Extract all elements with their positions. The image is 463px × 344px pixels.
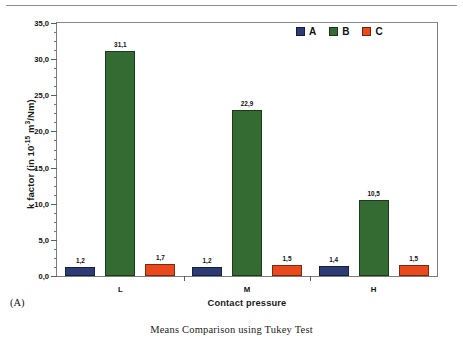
bar-a-m[interactable] xyxy=(192,267,222,276)
bar-value-label: 1,2 xyxy=(76,257,85,264)
bar-c-l[interactable] xyxy=(145,264,175,276)
x-category-label-h: H xyxy=(371,285,377,294)
x-group-separator-tick xyxy=(310,276,311,281)
y-axis-title-exponent-2: 3 xyxy=(24,121,31,125)
y-tick-label: 5,0 xyxy=(38,235,49,244)
y-axis-title: k factor (in 10-15 m3/Nm) xyxy=(24,59,36,249)
bar-value-label: 22,9 xyxy=(241,100,253,107)
legend-item-c[interactable]: C xyxy=(362,26,382,37)
bar-b-m[interactable] xyxy=(232,110,262,276)
y-tick-label: 20,0 xyxy=(34,127,49,136)
bar-b-h[interactable] xyxy=(359,200,389,276)
bars-layer: 1,231,11,71,222,91,51,410,51,5 xyxy=(57,23,437,276)
y-tick-label: 35,0 xyxy=(34,19,49,28)
bar-b-l[interactable] xyxy=(105,51,135,276)
x-category-label-m: M xyxy=(244,285,251,294)
legend-swatch-c xyxy=(362,27,371,36)
figure-caption: Means Comparison using Tukey Test xyxy=(0,324,463,335)
bar-c-m[interactable] xyxy=(272,265,302,276)
y-axis-title-suffix: /Nm) xyxy=(25,99,36,121)
legend-swatch-b xyxy=(329,27,338,36)
y-tick-label: 0,0 xyxy=(38,272,49,281)
x-axis-title: Contact pressure xyxy=(56,298,438,308)
y-tick-label: 10,0 xyxy=(34,199,49,208)
bar-value-label: 1,5 xyxy=(409,255,418,262)
panel-label: (A) xyxy=(10,297,25,308)
figure-grouped-bar-chart: k factor (in 10-15 m3/Nm) 0,05,010,015,0… xyxy=(0,0,463,344)
legend-swatch-a xyxy=(296,27,305,36)
bar-value-label: 1,4 xyxy=(329,256,338,263)
legend-label-a: A xyxy=(309,26,316,37)
bar-a-l[interactable] xyxy=(65,267,95,276)
chart-legend: ABC xyxy=(296,26,383,37)
y-axis-title-exponent-1: -15 xyxy=(24,136,31,146)
x-group-separator-tick xyxy=(184,276,185,281)
bar-value-label: 1,5 xyxy=(283,255,292,262)
bar-value-label: 31,1 xyxy=(114,41,126,48)
plot-area: 0,05,010,015,020,025,030,035,0 LMH 1,231… xyxy=(56,22,438,277)
bar-a-h[interactable] xyxy=(319,266,349,276)
y-tick-label: 30,0 xyxy=(34,55,49,64)
legend-item-a[interactable]: A xyxy=(296,26,316,37)
legend-label-b: B xyxy=(342,26,349,37)
legend-item-b[interactable]: B xyxy=(329,26,349,37)
y-tick-label: 25,0 xyxy=(34,91,49,100)
y-tick-major xyxy=(51,276,57,277)
bar-value-label: 1,7 xyxy=(156,254,165,261)
bar-value-label: 1,2 xyxy=(203,257,212,264)
y-tick-label: 15,0 xyxy=(34,163,49,172)
x-category-label-l: L xyxy=(118,285,123,294)
bar-value-label: 10,5 xyxy=(367,190,379,197)
legend-label-c: C xyxy=(375,26,382,37)
bar-c-h[interactable] xyxy=(399,265,429,276)
